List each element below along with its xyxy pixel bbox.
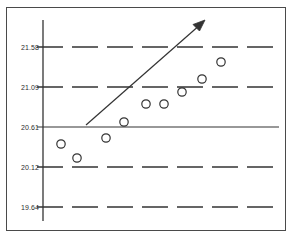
- data-point: [160, 100, 168, 108]
- chart-screenshot: 21.58 21.09 20.61 20.12 19.64: [0, 0, 293, 244]
- data-point: [120, 118, 128, 126]
- data-point: [73, 154, 81, 162]
- data-point: [217, 58, 225, 66]
- data-point: [57, 140, 65, 148]
- figure-frame: 21.58 21.09 20.61 20.12 19.64: [6, 7, 286, 231]
- data-point: [102, 134, 110, 142]
- data-point: [142, 100, 150, 108]
- y-tick-label-20-12: 20.12: [9, 164, 39, 171]
- y-tick-label-21-58: 21.58: [9, 44, 39, 51]
- y-tick-label-20-61: 20.61: [9, 124, 39, 131]
- data-point: [198, 75, 206, 83]
- y-tick-label-21-09: 21.09: [9, 84, 39, 91]
- plot-area: 21.58 21.09 20.61 20.12 19.64: [7, 8, 285, 230]
- trend-arrow-shaft: [86, 24, 201, 125]
- data-point-series: [57, 58, 225, 162]
- trend-arrow: [86, 20, 205, 125]
- y-tick-label-19-64: 19.64: [9, 204, 39, 211]
- data-point: [178, 88, 186, 96]
- chart-canvas: [7, 8, 285, 230]
